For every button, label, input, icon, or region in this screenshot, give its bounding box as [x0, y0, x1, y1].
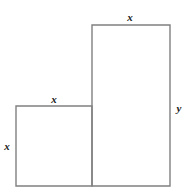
figure-background — [0, 0, 191, 194]
figure-canvas — [0, 0, 191, 194]
square-top-length-label: x — [51, 94, 57, 105]
tall-rect-top-length-label: x — [127, 12, 133, 23]
geometry-figure: x x x y — [0, 0, 191, 194]
square-left-length-label: x — [4, 141, 10, 152]
tall-rect-right-length-label: y — [177, 103, 182, 114]
